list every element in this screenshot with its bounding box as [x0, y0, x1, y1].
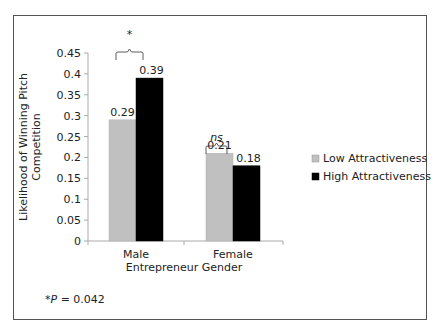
y-tick-label: 0.1 [64, 193, 82, 206]
x-tick-label: Female [213, 248, 253, 261]
significance-label: * [127, 28, 133, 41]
y-axis-label: Likelihood of Winning PitchCompetition [17, 73, 43, 221]
bars: 0.290.390.210.18 [109, 64, 261, 241]
bar [206, 153, 233, 241]
legend-label: High Attractiveness [323, 170, 431, 183]
data-label: 0.39 [139, 64, 164, 77]
y-tick-label: 0.05 [57, 214, 82, 227]
legend: Low AttractivenessHigh Attractiveness [312, 152, 431, 183]
y-axis: 00.050.10.150.20.250.30.350.40.45 [57, 47, 89, 248]
footnote: *P = 0.042 [45, 293, 105, 306]
legend-label: Low Attractiveness [323, 152, 428, 165]
data-label: 0.29 [110, 106, 135, 119]
y-tick-label: 0.2 [64, 151, 82, 164]
bar [136, 78, 163, 241]
bar [109, 120, 136, 241]
y-tick-label: 0.35 [57, 89, 82, 102]
y-tick-label: 0.25 [57, 131, 82, 144]
y-tick-label: 0.3 [64, 110, 82, 123]
bar [233, 166, 260, 241]
data-label: 0.18 [236, 152, 261, 165]
x-axis: MaleFemale [88, 241, 283, 261]
legend-swatch [312, 155, 319, 162]
legend-swatch [312, 173, 319, 180]
significance-label: ns [210, 131, 223, 144]
y-tick-label: 0.15 [57, 172, 82, 185]
y-tick-label: 0.45 [57, 47, 82, 60]
x-tick-label: Male [123, 248, 149, 261]
y-tick-label: 0 [74, 235, 81, 248]
x-axis-label: Entrepreneur Gender [126, 261, 243, 274]
y-tick-label: 0.4 [64, 68, 82, 81]
bar-chart: 00.050.10.150.20.250.30.350.40.45 MaleFe… [0, 0, 443, 334]
significance-bracket [116, 49, 143, 60]
